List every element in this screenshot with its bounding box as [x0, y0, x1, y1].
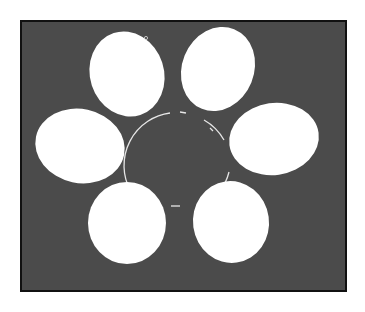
figure-canvas	[0, 0, 365, 312]
white-oval-bottom-left	[88, 182, 166, 264]
